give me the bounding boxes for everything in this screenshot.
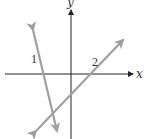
x-axis-label: x xyxy=(136,67,143,81)
line-2 xyxy=(36,40,123,131)
coordinate-diagram: x y 1 2 xyxy=(0,0,146,139)
line-1-label: 1 xyxy=(31,52,37,66)
y-axis-label: y xyxy=(66,0,74,9)
line-1 xyxy=(33,30,57,131)
line-2-label: 2 xyxy=(92,55,98,69)
